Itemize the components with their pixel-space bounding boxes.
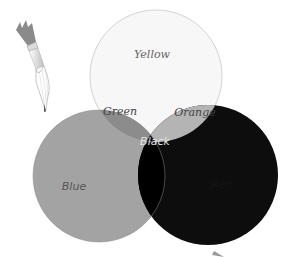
arrow-mark-icon — [212, 251, 224, 257]
label-blue: Blue — [62, 180, 87, 193]
label-yellow: Yellow — [134, 48, 170, 61]
label-orange: Orange — [174, 106, 216, 119]
label-black: Black — [140, 135, 170, 148]
venn-diagram: Yellow Green Orange Black Blue Red — [0, 0, 286, 257]
paintbrush-icon — [16, 20, 49, 112]
label-green: Green — [103, 105, 137, 118]
label-red: Red — [211, 178, 233, 191]
